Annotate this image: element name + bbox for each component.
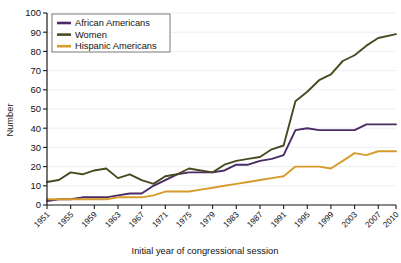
y-tick-label: 70 (30, 65, 41, 76)
x-tick-label: 1963 (103, 210, 123, 230)
y-tick-label: 40 (30, 123, 41, 134)
y-tick-label: 0 (36, 199, 41, 210)
x-tick-label: 1991 (269, 210, 289, 230)
x-tick-label: 1995 (293, 210, 313, 230)
chart-legend: African AmericansWomenHispanic Americans (52, 14, 170, 52)
series-line-african-americans (47, 124, 396, 201)
x-tick-label: 1983 (222, 210, 242, 230)
x-tick-label: 1955 (56, 210, 76, 230)
y-tick-labels: 0102030405060708090100 (25, 7, 47, 210)
x-tick-label: 1971 (151, 210, 171, 230)
x-tick-label: 1979 (198, 210, 218, 230)
chart-container: 0102030405060708090100 19511955195919631… (0, 0, 401, 263)
y-tick-label: 100 (25, 7, 41, 18)
legend-label: Hispanic Americans (75, 41, 157, 51)
x-tick-label: 2007 (364, 210, 384, 230)
y-tick-label: 80 (30, 46, 41, 57)
x-tick-label: 1967 (127, 210, 147, 230)
x-tick-label: 2010 (381, 210, 401, 230)
x-tick-label: 1999 (316, 210, 336, 230)
x-tick-labels: 1951195519591963196719711975197919831987… (32, 205, 401, 229)
x-tick-label: 2003 (340, 210, 360, 230)
series-layer (47, 34, 396, 201)
x-tick-label: 1987 (245, 210, 265, 230)
y-axis-title: Number (5, 103, 15, 136)
line-chart: 0102030405060708090100 19511955195919631… (0, 0, 401, 263)
y-tick-label: 30 (30, 142, 41, 153)
legend-label: Women (75, 30, 107, 40)
series-line-hispanic-americans (47, 151, 396, 199)
y-tick-label: 90 (30, 27, 41, 38)
legend-label: African Americans (75, 18, 150, 28)
x-tick-label: 1951 (32, 210, 52, 230)
y-tick-label: 10 (30, 180, 41, 191)
y-tick-label: 20 (30, 161, 41, 172)
x-axis-title: Initial year of congressional session (132, 246, 279, 256)
y-tick-label: 50 (30, 103, 41, 114)
y-tick-label: 60 (30, 84, 41, 95)
x-tick-label: 1975 (174, 210, 194, 230)
x-tick-label: 1959 (80, 210, 100, 230)
